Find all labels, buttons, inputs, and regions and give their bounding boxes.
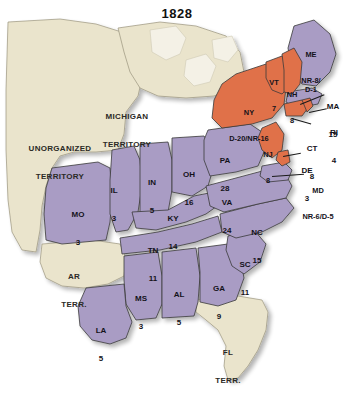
- state-ms: [124, 252, 162, 320]
- state-la: [78, 284, 132, 344]
- state-pa: [204, 124, 264, 176]
- landmass-group: [6, 19, 336, 380]
- region-florida-territory: [196, 296, 268, 380]
- us-map-svg: [0, 0, 354, 404]
- state-al: [162, 248, 200, 318]
- state-in: [140, 142, 172, 214]
- state-mo: [44, 162, 112, 244]
- election-map-1828: 1828: [0, 0, 354, 404]
- state-md: [260, 162, 292, 182]
- region-arkansas-territory: [40, 240, 126, 288]
